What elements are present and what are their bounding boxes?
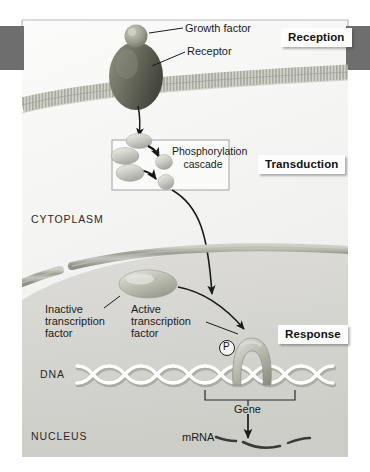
label-dna: DNA: [40, 369, 65, 381]
label-inactive-tf-line1: Inactive: [45, 303, 83, 315]
diagram-svg: [0, 0, 370, 472]
label-phosphate: P: [223, 341, 230, 352]
nucleus-region: [22, 249, 348, 457]
inactive-transcription-factor: [119, 270, 177, 298]
label-growth-factor: Growth factor: [185, 22, 251, 34]
label-phosphorylation-cascade-line1: Phosphorylation: [172, 145, 234, 157]
left-edge-tab: [0, 26, 24, 70]
diagram-canvas: Reception Transduction Response Growth f…: [0, 0, 370, 472]
growth-factor-ligand: [125, 25, 148, 48]
label-receptor: Receptor: [187, 45, 232, 57]
label-gene: Gene: [234, 403, 261, 415]
label-mrna: mRNA: [182, 431, 214, 443]
stage-label-transduction: Transduction: [258, 155, 345, 174]
label-nucleus: NUCLEUS: [31, 431, 87, 443]
stage-label-response: Response: [278, 325, 348, 344]
label-cytoplasm: CYTOPLASM: [31, 214, 104, 226]
label-inactive-tf-line2: transcription: [45, 315, 105, 327]
label-active-tf-line1: Active: [131, 303, 161, 315]
label-phosphorylation-cascade-line2: cascade: [172, 158, 234, 170]
stage-label-reception: Reception: [281, 28, 352, 47]
label-inactive-tf-line3: factor: [45, 327, 73, 339]
label-active-tf-line3: factor: [131, 327, 159, 339]
label-active-tf-line2: transcription: [131, 315, 191, 327]
